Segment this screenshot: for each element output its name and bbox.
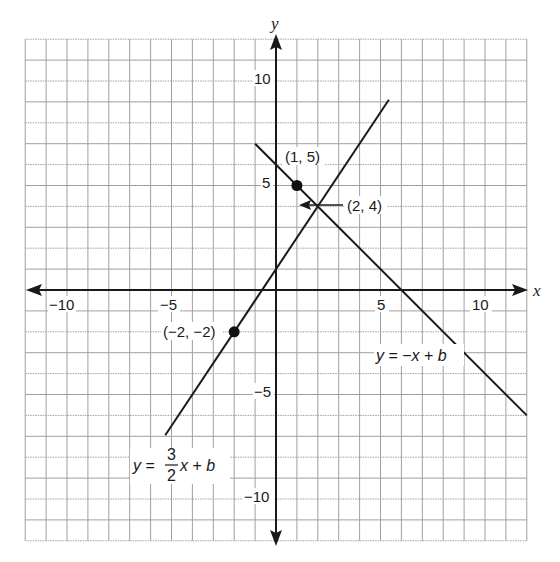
x-tick-label: 5 (377, 296, 385, 313)
points (229, 180, 303, 337)
svg-text:2: 2 (167, 467, 176, 484)
y-axis-label: y (269, 14, 279, 33)
series-line-0 (165, 100, 389, 435)
svg-text:y =: y = (132, 457, 155, 474)
x-axis-label: x (532, 281, 541, 300)
point-marker (229, 326, 240, 337)
equation-label-neg-x: y = −x + b (375, 347, 447, 364)
y-tick-label: 10 (254, 70, 271, 87)
y-tick-label: −5 (254, 383, 271, 400)
series-lines (165, 100, 527, 435)
svg-text:3: 3 (167, 446, 176, 463)
svg-text:x + b: x + b (179, 457, 215, 474)
x-tick-label: −10 (49, 296, 74, 313)
y-tick-label: 5 (262, 174, 270, 191)
tick-labels: −10 −5 5 10 10 5 −5 −10 (48, 70, 492, 505)
point-label-neg2-neg2: (−2, −2) (163, 323, 216, 340)
point-marker (291, 180, 302, 191)
y-tick-label: −10 (244, 488, 269, 505)
intersection-label-2-4: (2, 4) (347, 197, 382, 214)
coordinate-plane-chart: x y −10 −5 5 10 10 5 −5 −10 (1, 5) (−2, … (0, 0, 560, 562)
point-label-1-5: (1, 5) (285, 148, 320, 165)
x-tick-label: 10 (472, 296, 489, 313)
x-tick-label: −5 (160, 296, 177, 313)
